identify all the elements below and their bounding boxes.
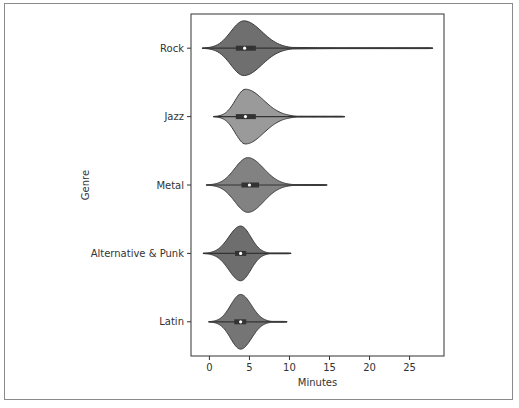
y-tick-label: Jazz [163, 111, 184, 122]
y-tick-label: Metal [156, 180, 184, 191]
violin-median-dot [244, 115, 247, 118]
x-tick-label: 15 [323, 362, 336, 373]
x-tick-label: 0 [206, 362, 212, 373]
violin-median-dot [239, 252, 242, 255]
violin-median-dot [248, 183, 251, 186]
y-axis-label: Genre [80, 170, 91, 200]
x-tick-label: 20 [363, 362, 376, 373]
x-axis-label: Minutes [298, 377, 337, 388]
y-tick-label: Latin [159, 316, 184, 327]
violin-median-dot [239, 320, 242, 323]
x-ticks-group: 0510152025 [206, 356, 416, 373]
violin-median-dot [243, 47, 246, 50]
y-ticks-group: RockJazzMetalAlternative & PunkLatin [91, 43, 191, 328]
x-tick-label: 5 [246, 362, 252, 373]
x-tick-label: 25 [403, 362, 416, 373]
x-tick-label: 10 [283, 362, 296, 373]
y-tick-label: Rock [160, 43, 184, 54]
violin-chart: RockJazzMetalAlternative & PunkLatin 051… [0, 0, 519, 408]
y-tick-label: Alternative & Punk [91, 248, 185, 259]
